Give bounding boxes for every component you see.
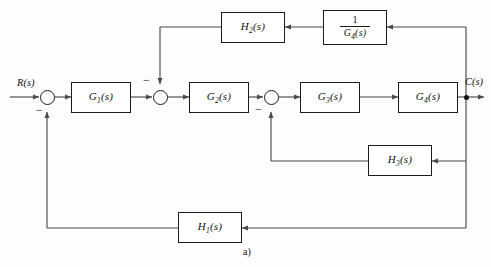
- summing-junction-1-minus-sign: −: [36, 104, 43, 116]
- figure-caption: a): [243, 246, 251, 257]
- block-H1-label: H1(s): [198, 220, 222, 235]
- block-H2[interactable]: H2(s): [221, 12, 285, 43]
- summing-junction-2-minus-sign: −: [143, 74, 150, 86]
- block-H3-label: H3(s): [388, 153, 412, 168]
- summing-junction-3[interactable]: [264, 90, 279, 105]
- block-G4[interactable]: G4(s): [398, 82, 458, 113]
- summing-junction-2[interactable]: [153, 90, 168, 105]
- block-G4-label: G4(s): [416, 90, 440, 105]
- output-takeoff-node: [464, 95, 469, 100]
- block-G3-label: G3(s): [318, 90, 342, 105]
- block-G1-label: G1(s): [89, 90, 113, 105]
- block-G2-label: G2(s): [207, 90, 231, 105]
- block-H2-label: H2(s): [241, 20, 265, 35]
- block-G1[interactable]: G1(s): [71, 82, 131, 113]
- input-signal-label: R(s): [17, 77, 35, 88]
- fraction-numerator: 1: [352, 15, 357, 26]
- fraction-denominator: G4(s): [344, 27, 367, 41]
- block-H3[interactable]: H3(s): [368, 145, 432, 176]
- output-signal-label: C(s): [465, 76, 483, 87]
- block-G3[interactable]: G3(s): [300, 82, 360, 113]
- summing-junction-3-minus-sign: −: [255, 103, 262, 115]
- block-H1[interactable]: H1(s): [178, 212, 242, 243]
- block-inverse-G4[interactable]: 1 G4(s): [323, 10, 387, 45]
- block-diagram-figure: G1(s) G2(s) G3(s) G4(s) H1(s) H2(s) H3(s…: [0, 0, 491, 267]
- block-G2[interactable]: G2(s): [189, 82, 249, 113]
